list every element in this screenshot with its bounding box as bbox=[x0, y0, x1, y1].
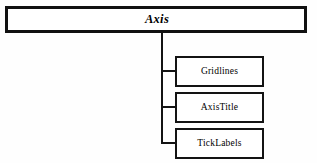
diagram-canvas: Axis Gridlines AxisTitle TickLabels bbox=[0, 0, 317, 163]
node-axis-label: Axis bbox=[143, 13, 169, 26]
connector-stub-ticklabels bbox=[161, 142, 176, 144]
node-axis[interactable]: Axis bbox=[5, 6, 307, 33]
node-gridlines-label: Gridlines bbox=[201, 67, 238, 77]
node-axistitle-label: AxisTitle bbox=[201, 103, 238, 113]
connector-stub-gridlines bbox=[161, 70, 176, 72]
connector-stub-axistitle bbox=[161, 106, 176, 108]
node-ticklabels[interactable]: TickLabels bbox=[175, 128, 264, 159]
connector-trunk-line bbox=[161, 33, 163, 143]
node-axistitle[interactable]: AxisTitle bbox=[175, 92, 264, 123]
node-ticklabels-label: TickLabels bbox=[197, 139, 241, 149]
node-gridlines[interactable]: Gridlines bbox=[175, 56, 264, 87]
